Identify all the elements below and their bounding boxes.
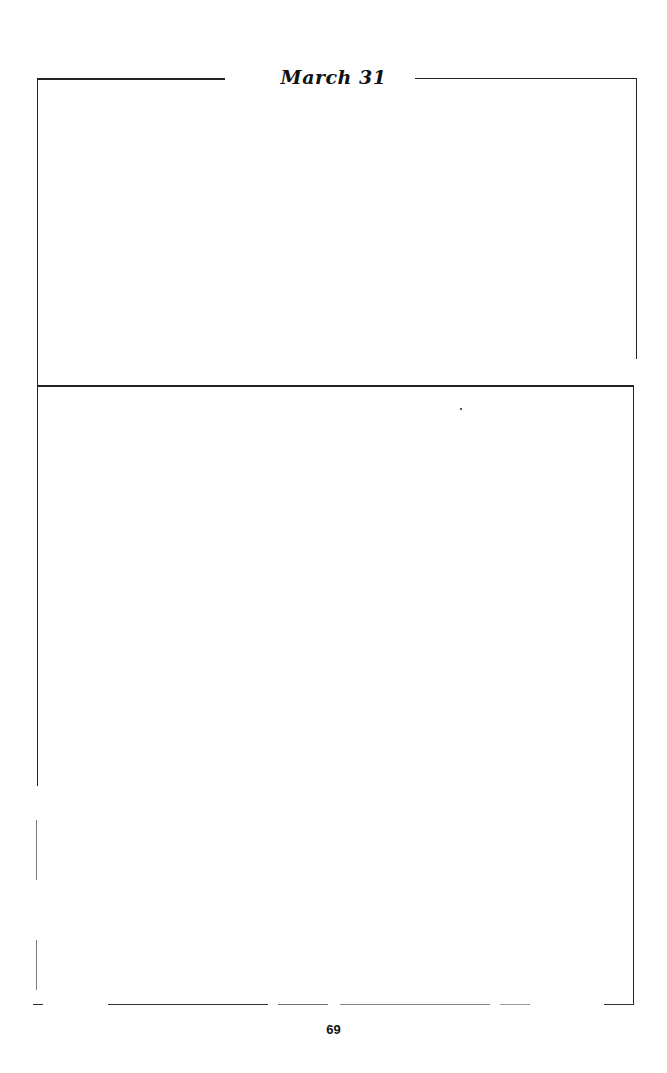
section-divider bbox=[37, 385, 634, 387]
left-border-bottom-fragment bbox=[36, 820, 37, 880]
bottom-border-fragment-5 bbox=[500, 1004, 530, 1005]
ink-speck bbox=[460, 408, 462, 410]
bottom-border-fragment-3 bbox=[278, 1004, 328, 1005]
page-title-text: March 31 bbox=[275, 66, 393, 88]
left-border-lower bbox=[37, 386, 38, 786]
right-border-lower bbox=[633, 386, 634, 1005]
right-border-upper bbox=[636, 79, 637, 359]
bottom-border-fragment-2 bbox=[108, 1004, 268, 1005]
bottom-border-fragment-4 bbox=[340, 1004, 490, 1005]
left-border-upper bbox=[37, 79, 38, 385]
left-border-bottom-fragment-2 bbox=[36, 940, 37, 990]
page-title: March 31 bbox=[0, 66, 667, 88]
bottom-border-fragment-1 bbox=[33, 1004, 43, 1005]
page-number: 69 bbox=[0, 1022, 667, 1037]
diary-page: March 31 69 bbox=[0, 0, 667, 1073]
bottom-border-fragment-6 bbox=[604, 1004, 634, 1005]
